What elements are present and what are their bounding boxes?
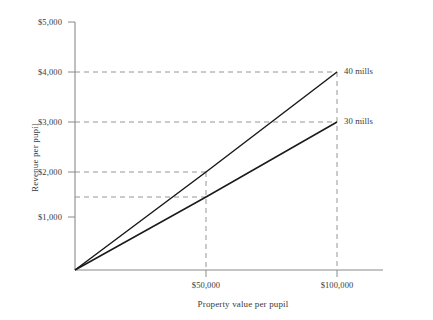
y-axis-title: Revenue per pupil bbox=[31, 123, 40, 192]
y-tick-label-5000: $5,000 bbox=[0, 18, 62, 27]
y-axis-ticks bbox=[68, 22, 75, 217]
y-tick-label-1000: $1,000 bbox=[0, 213, 62, 222]
x-axis-title: Property value per pupil bbox=[153, 300, 333, 309]
x-tick-label-50000: $50,000 bbox=[166, 281, 246, 290]
clipped-caption-strip bbox=[0, 312, 433, 320]
series-line-40-mills bbox=[75, 72, 337, 270]
y-tick-label-4000: $4,000 bbox=[0, 68, 62, 77]
series-label-40-mills: 40 mills bbox=[344, 67, 373, 76]
chart-plot-area bbox=[0, 0, 433, 320]
x-axis-ticks bbox=[206, 270, 337, 277]
chart-figure: $5,000 $4,000 $3,000 $2,000 $1,000 $50,0… bbox=[0, 0, 433, 320]
x-tick-label-100000: $100,000 bbox=[295, 281, 379, 290]
series-label-30-mills: 30 mills bbox=[344, 117, 373, 126]
